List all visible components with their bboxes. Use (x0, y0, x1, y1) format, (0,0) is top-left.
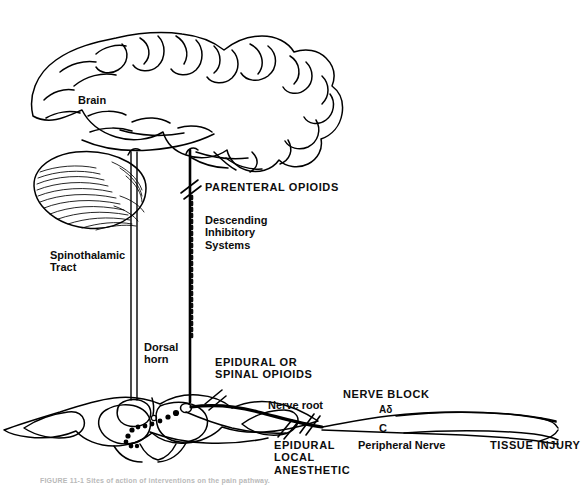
label-brain: Brain (78, 94, 106, 106)
label-epidural-local-anesthetic: EPIDURAL LOCAL ANESTHETIC (274, 439, 350, 476)
label-epidural-or-spinal-opioids: EPIDURAL OR SPINAL OPIOIDS (215, 356, 312, 381)
figure-caption: FIGURE 11-1 Sites of action of intervent… (40, 477, 540, 487)
label-nerve-root: Nerve root (268, 399, 323, 411)
label-fiber-c: C (379, 422, 387, 434)
label-dorsal-horn: Dorsal horn (144, 341, 178, 366)
descending-inhibitory-tract (186, 148, 198, 402)
label-nerve-block: NERVE BLOCK (343, 388, 429, 400)
label-spinothalamic-tract: Spinothalamic Tract (50, 249, 125, 274)
label-descending-inhibitory-systems: Descending Inhibitory Systems (205, 214, 267, 251)
label-parenteral-opioids: PARENTERAL OPIOIDS (205, 181, 339, 193)
label-fiber-a-delta: Aδ (379, 404, 392, 415)
label-peripheral-nerve: Peripheral Nerve (358, 439, 445, 451)
label-tissue-injury: TISSUE INJURY (490, 439, 581, 451)
cerebellum-outline (34, 151, 146, 230)
cerebellar-folia (37, 162, 144, 230)
